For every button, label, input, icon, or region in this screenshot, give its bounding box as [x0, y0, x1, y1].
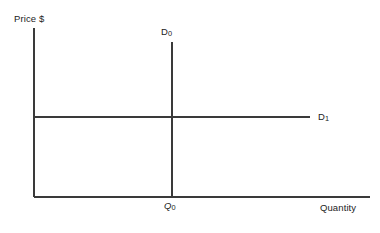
demand-curve-d0-label-subscript: 0	[168, 29, 172, 38]
quantity-point-label-subscript: 0	[172, 203, 176, 212]
quantity-point-label: Q0	[164, 201, 176, 211]
y-axis-label: Price $	[14, 14, 44, 24]
x-axis-label: Quantity	[320, 203, 356, 213]
quantity-point-label-main: Q	[164, 200, 172, 211]
demand-curve-d1-label-main: D	[318, 111, 325, 122]
demand-curve-d0-label-main: D	[161, 26, 168, 37]
demand-curve-d0-label: D0	[161, 27, 172, 37]
demand-curve-figure: Price $ D0 D1 Q0 Quantity	[0, 0, 380, 233]
demand-curve-d1-label-subscript: 1	[325, 114, 329, 123]
demand-curve-d1-label: D1	[318, 112, 329, 122]
